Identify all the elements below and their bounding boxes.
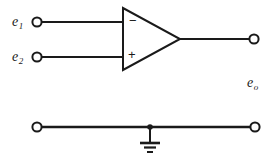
output-label: eo — [247, 76, 258, 92]
input-2-label: e2 — [12, 50, 23, 66]
circuit-diagram: e1 e2 eo − + — [0, 0, 275, 166]
plus-sign-icon: + — [128, 48, 136, 61]
common-right-terminal[interactable] — [250, 122, 259, 131]
circuit-schematic-svg — [0, 0, 275, 166]
output-label-base: e — [247, 75, 253, 90]
input-1-label: e1 — [12, 15, 23, 31]
output-terminal[interactable] — [249, 34, 258, 43]
input-1-terminal[interactable] — [32, 17, 41, 26]
input-1-label-base: e — [12, 14, 18, 29]
input-2-label-base: e — [12, 49, 18, 64]
input-2-terminal[interactable] — [32, 52, 41, 61]
input-2-label-subscript: 2 — [19, 56, 24, 66]
common-left-terminal[interactable] — [32, 122, 41, 131]
output-label-subscript: o — [254, 82, 259, 92]
input-1-label-subscript: 1 — [19, 21, 24, 31]
minus-sign-icon: − — [129, 14, 137, 27]
